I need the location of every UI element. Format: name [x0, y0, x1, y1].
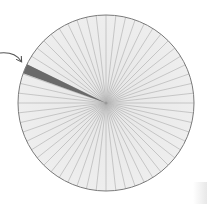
pointer-arrow-icon: [0, 53, 21, 61]
center-dot: [104, 101, 107, 104]
segmented-circle-diagram: [0, 0, 207, 204]
page-corner-shadow: [193, 182, 207, 204]
